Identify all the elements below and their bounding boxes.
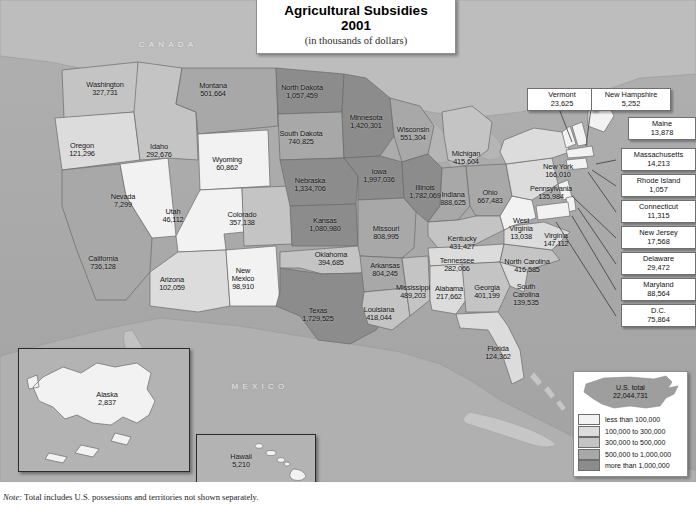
callout-value: 11,315: [626, 212, 691, 221]
state-label-texas: Texas1,729,525: [302, 307, 334, 324]
state-value: 147,112: [543, 240, 568, 248]
legend-swatch-2: [578, 437, 600, 448]
state-label-florida: Florida124,362: [485, 345, 511, 362]
legend-swatch-1: [578, 426, 600, 437]
state-label-arizona: Arizona102,059: [159, 276, 185, 293]
state-label-indiana: Indiana888,625: [440, 191, 466, 208]
state-value: 121,296: [69, 150, 95, 158]
inset-label-hawaii: Hawaii 5,210: [230, 453, 251, 470]
state-label-iowa: Iowa1,997,036: [363, 168, 395, 185]
legend-total: U.S. total 22,044,731: [574, 384, 687, 401]
map-note: Note: Total includes U.S. possessions an…: [3, 492, 259, 502]
state-name: NewMexico: [232, 267, 255, 283]
state-label-virginia: Virginia147,112: [543, 232, 568, 249]
state-label-michigan: Michigan415,604: [452, 150, 480, 167]
inset-hawaii: Hawaii 5,210: [196, 434, 316, 482]
state-label-north-dakota: North Dakota1,057,459: [281, 84, 323, 101]
state-value: 736,128: [88, 263, 118, 271]
state-value: 551,304: [397, 134, 429, 142]
state-label-colorado: Colorado357,138: [228, 211, 257, 228]
state-value: 804,245: [370, 270, 400, 278]
note-text: Total includes U.S. possessions and terr…: [22, 492, 258, 502]
state-label-louisiana: Louisiana418,044: [364, 306, 394, 323]
state-value: 13,038: [509, 233, 532, 241]
callout-delaware: Delaware29,472: [621, 252, 696, 275]
state-value: 46,112: [162, 216, 183, 224]
state-value: 217,662: [435, 293, 463, 301]
state-value: 415,604: [452, 158, 480, 166]
callout-connecticut: Connecticut11,315: [621, 200, 696, 223]
legend-row-3: 500,000 to 1,000,000: [578, 449, 687, 460]
callout-value: 75,864: [626, 316, 691, 325]
state-label-west-virginia: WestVirginia13,038: [509, 217, 532, 242]
state-value: 166,010: [543, 171, 573, 179]
state-label-illinois: Illinois1,782,069: [409, 184, 441, 201]
legend-swatch-4: [578, 460, 600, 471]
legend-row-1: 100,000 to 300,000: [578, 426, 687, 437]
state-value: 357,138: [228, 219, 257, 227]
state-label-nebraska: Nebraska1,334,706: [294, 177, 326, 194]
state-value: 1,782,069: [409, 192, 441, 200]
alaska-inset-svg: [19, 349, 189, 471]
state-value: 808,995: [373, 233, 399, 241]
title-line-2: 2001: [263, 18, 449, 33]
state-label-oklahoma: Oklahoma394,685: [315, 251, 347, 268]
legend-rows: less than 100,000100,000 to 300,000300,0…: [574, 414, 687, 471]
state-value: 1,334,706: [294, 185, 326, 193]
country-label-mexico: MEXICO: [232, 382, 289, 391]
state-value: 667,483: [477, 197, 503, 205]
state-value: 327,731: [86, 89, 123, 97]
inset-alaska: Alaska 2,837: [18, 348, 190, 472]
state-value: 102,059: [159, 284, 185, 292]
state-value: 7,299: [111, 201, 136, 209]
state-value: 418,044: [364, 314, 394, 322]
map-legend: U.S. total 22,044,731 less than 100,0001…: [573, 371, 688, 477]
state-label-idaho: Idaho292,676: [146, 143, 172, 160]
state-label-pennsylvania: Pennsylvania135,984: [530, 185, 572, 202]
state-value: 282,066: [440, 265, 474, 273]
title-line-1: Agricultural Subsidies: [263, 3, 449, 18]
state-label-washington: Washington327,731: [86, 81, 123, 98]
state-label-south-dakota: South Dakota740,825: [280, 130, 323, 147]
note-label: Note:: [3, 492, 22, 502]
state-value: 431,427: [447, 243, 476, 251]
state-value: 139,535: [513, 299, 539, 307]
state-name: SouthCarolina: [513, 283, 539, 299]
state-label-minnesota: Minnesota1,420,301: [350, 114, 383, 131]
legend-row-0: less than 100,000: [578, 414, 687, 425]
inset-label-alaska: Alaska 2,837: [96, 391, 117, 408]
legend-label-0: less than 100,000: [605, 416, 660, 423]
state-label-ohio: Ohio667,483: [477, 189, 503, 206]
state-label-alabama: Alabama217,662: [435, 285, 463, 302]
state-label-north-carolina: North Carolina416,585: [504, 258, 550, 275]
state-label-south-carolina: SouthCarolina139,535: [513, 283, 539, 308]
state-label-new-mexico: NewMexico98,910: [232, 267, 255, 292]
state-label-kansas: Kansas1,080,980: [309, 217, 341, 234]
state-label-california: California736,128: [88, 255, 118, 272]
legend-total-label: U.S. total: [616, 384, 645, 391]
legend-label-2: 300,000 to 500,000: [605, 439, 665, 446]
callout-rhode-island: Rhode Island1,057: [621, 174, 696, 197]
state-value: 1,057,459: [281, 92, 323, 100]
state-label-oregon: Oregon121,296: [69, 142, 95, 159]
state-label-montana: Montana501,664: [199, 82, 227, 99]
callout-d-c-: D.C.75,864: [621, 304, 696, 327]
state-value: 1,420,301: [350, 122, 383, 130]
callout-massachusetts: Massachusetts14,213: [621, 148, 696, 171]
legend-label-4: more than 1,000,000: [605, 462, 670, 469]
callout-new-jersey: New Jersey17,568: [621, 226, 696, 249]
state-label-mississippi: Mississippi489,203: [396, 284, 430, 301]
legend-us-thumbnail: U.S. total 22,044,731: [574, 372, 687, 414]
country-label-canada: CANADA: [139, 40, 198, 49]
callout-vermont: Vermont23,625: [527, 88, 597, 111]
state-value: 135,984: [530, 193, 572, 201]
callout-value: 88,564: [626, 290, 691, 299]
legend-swatch-3: [578, 449, 600, 460]
callout-value: 5,252: [596, 100, 666, 109]
state-value: 740,825: [280, 138, 323, 146]
state-value: 1,729,525: [302, 315, 334, 323]
legend-swatch-0: [578, 414, 600, 425]
legend-total-value: 22,044,731: [613, 392, 648, 399]
state-oregon: [55, 112, 140, 170]
state-label-wyoming: Wyoming60,862: [212, 156, 242, 173]
